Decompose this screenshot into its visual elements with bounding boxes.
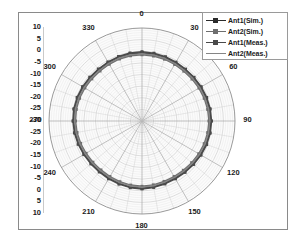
legend-label: Ant1(Meas.) bbox=[228, 39, 268, 46]
legend-item: Ant1(Sim.) bbox=[206, 15, 285, 25]
angular-tick-label-30: 30 bbox=[186, 24, 203, 31]
legend-item: Ant2(Sim.) bbox=[206, 26, 285, 36]
angular-tick-label-90: 90 bbox=[239, 116, 256, 123]
legend-swatch-ant1-sim bbox=[206, 16, 226, 25]
legend-swatch-ant1-meas bbox=[206, 38, 226, 47]
angular-tick-label-210: 210 bbox=[80, 208, 97, 215]
angular-tick-label-120: 120 bbox=[225, 169, 242, 176]
polar-plot-figure: 1050-5-10-15-20-25-30-25-20-15-10-50510 … bbox=[0, 0, 303, 241]
legend-label: Ant1(Sim.) bbox=[228, 17, 263, 24]
legend-marker bbox=[213, 18, 218, 23]
legend-label: Ant2(Sim.) bbox=[228, 28, 263, 35]
legend-line bbox=[206, 53, 226, 54]
angular-tick-label-60: 60 bbox=[225, 63, 242, 70]
legend-item: Ant2(Meas.) bbox=[206, 48, 285, 58]
legend-label: Ant2(Meas.) bbox=[228, 50, 268, 57]
angular-tick-label-0: 0 bbox=[133, 10, 150, 17]
angular-tick-label-180: 180 bbox=[133, 222, 150, 229]
chart-legend: Ant1(Sim.) Ant2(Sim.) Ant1(Meas.) Ant2(M… bbox=[202, 12, 288, 60]
legend-swatch-ant2-meas bbox=[206, 49, 226, 58]
legend-marker bbox=[213, 40, 218, 45]
legend-marker bbox=[213, 29, 218, 34]
legend-swatch-ant2-sim bbox=[206, 27, 226, 36]
angular-tick-label-330: 330 bbox=[80, 24, 97, 31]
radial-tick-marks bbox=[0, 12, 44, 228]
angular-tick-label-150: 150 bbox=[186, 208, 203, 215]
legend-item: Ant1(Meas.) bbox=[206, 37, 285, 47]
